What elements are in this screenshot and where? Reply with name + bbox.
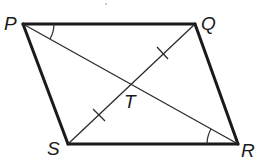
vertex-label-q: Q <box>201 13 216 34</box>
vertex-label-r: R <box>241 140 255 159</box>
intersection-label-t: T <box>124 91 137 112</box>
diagonal-pr <box>23 24 238 144</box>
side-qr <box>195 24 238 144</box>
tick-mark-qt <box>157 47 168 59</box>
diagonal-qs <box>68 24 195 144</box>
parallelogram-diagram: P Q R S T <box>0 0 258 159</box>
vertex-label-p: P <box>4 13 17 34</box>
vertex-label-s: S <box>47 138 60 159</box>
side-sp <box>23 24 68 144</box>
angle-arc-r <box>207 129 211 144</box>
angle-arc-p <box>50 24 54 39</box>
stray-dot <box>105 3 107 5</box>
